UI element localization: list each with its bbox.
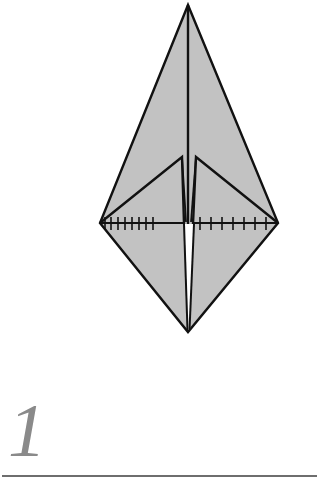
origami-diagram: [0, 0, 317, 488]
divider-rule: [2, 475, 317, 477]
step-number: 1: [8, 392, 46, 468]
